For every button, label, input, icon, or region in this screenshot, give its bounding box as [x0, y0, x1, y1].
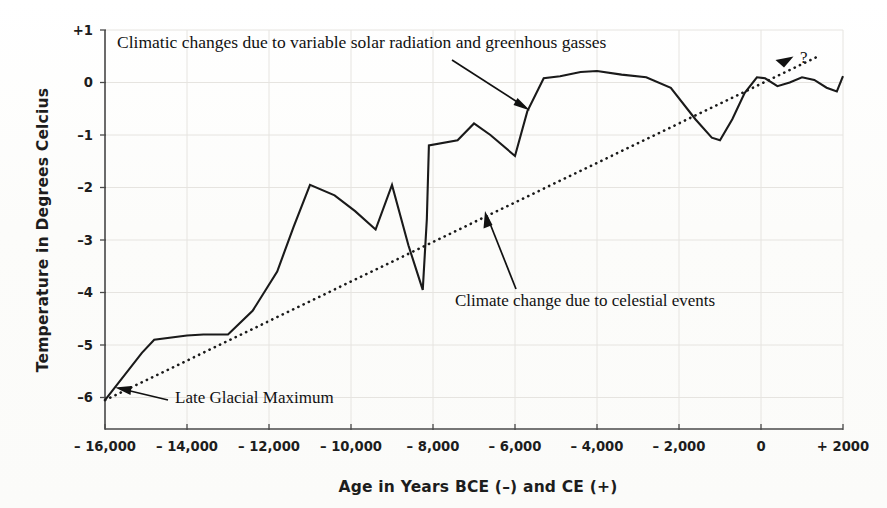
annotation-solar-greenhouse-arrowhead	[514, 98, 531, 111]
y-axis-tick-label: –5	[77, 338, 93, 353]
annotation-celestial-events-text: Climate change due to celestial events	[455, 291, 715, 310]
trend-arrow-head	[776, 57, 794, 68]
x-axis-tick-label: 0	[756, 439, 765, 454]
y-axis-tick-label: +1	[73, 23, 93, 38]
y-axis-tick-label: –4	[77, 285, 93, 300]
x-axis-tick-label: – 12,000	[238, 439, 300, 454]
x-axis-tick-labels: – 16,000– 14,000– 12,000– 10,000– 8,000–…	[74, 439, 869, 454]
y-axis-tick-label: –6	[77, 390, 93, 405]
x-axis-tick-label: – 6,000	[489, 439, 542, 454]
annotation-solar-greenhouse-text: Climatic changes due to variable solar r…	[117, 32, 607, 52]
x-axis-tick-label: – 2,000	[653, 439, 706, 454]
x-axis-tick-label: – 8,000	[407, 439, 460, 454]
y-axis-tick-label: –1	[77, 128, 93, 143]
y-axis-tick-labels: +10–1–2–3–4–5–6	[73, 23, 93, 406]
annotation-solar-greenhouse-arrow	[452, 60, 525, 107]
x-axis-title: Age in Years BCE (–) and CE (+)	[339, 478, 618, 496]
celestial-trend-line	[105, 55, 820, 400]
future-question-mark: ?	[800, 48, 808, 67]
x-axis-tick-label: – 4,000	[571, 439, 624, 454]
chart-page: +10–1–2–3–4–5–6 – 16,000– 14,000– 12,000…	[0, 0, 887, 508]
y-axis-title: Temperature in Degrees Celcius	[34, 88, 52, 372]
y-axis-tick-label: –3	[77, 233, 93, 248]
x-axis-tick-label: – 10,000	[320, 439, 382, 454]
x-axis-tick-label: – 16,000	[74, 439, 136, 454]
annotation-late-glacial-maximum: Late Glacial Maximum	[115, 386, 334, 407]
temperature-chart: +10–1–2–3–4–5–6 – 16,000– 14,000– 12,000…	[0, 0, 887, 508]
annotation-late-glacial-maximum-text: Late Glacial Maximum	[175, 388, 334, 407]
grid-lines	[105, 30, 843, 429]
temperature-series-line	[105, 71, 843, 400]
annotation-celestial-events: Climate change due to celestial events	[455, 211, 715, 310]
annotation-celestial-events-arrow	[487, 216, 516, 289]
y-axis-tick-label: –2	[77, 180, 93, 195]
y-axis-tick-label: 0	[84, 75, 93, 90]
axes	[105, 30, 843, 429]
x-axis-tick-label: – 14,000	[156, 439, 218, 454]
x-axis-tick-label: + 2000	[817, 439, 869, 454]
annotation-late-glacial-maximum-arrowhead	[115, 386, 132, 395]
